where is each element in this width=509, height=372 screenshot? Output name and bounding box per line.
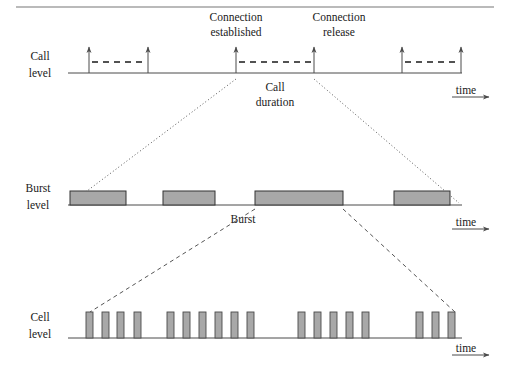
burst-rect	[163, 191, 215, 205]
cell-rect	[416, 312, 423, 338]
cell-rect	[298, 312, 305, 338]
connection-release-label-line2: release	[323, 26, 355, 38]
cell-rect	[183, 312, 190, 338]
burst-annotation-label: Burst	[231, 213, 257, 225]
connector-call-to-burst-right	[314, 79, 459, 203]
cell-level-time-label: time	[456, 342, 476, 354]
burst-level-group: time Burst level Burst	[26, 182, 489, 229]
cell-level-label-line1: Cell	[30, 311, 49, 323]
cell-rect	[134, 312, 141, 338]
cell-rect	[448, 312, 455, 338]
cell-rect	[231, 312, 238, 338]
cell-rect	[167, 312, 174, 338]
cell-level-group: time Cell level	[29, 311, 489, 355]
cell-rect	[247, 312, 254, 338]
cell-rect	[314, 312, 321, 338]
connection-established-label-line1: Connection	[209, 11, 262, 23]
cell-rect	[86, 312, 93, 338]
call-level-label-line2: level	[29, 67, 51, 79]
connection-established-label-line2: established	[210, 26, 261, 38]
connection-release-label-line1: Connection	[312, 11, 365, 23]
burst-level-label-line2: level	[27, 199, 49, 211]
burst-level-label-line1: Burst	[26, 182, 52, 194]
call-level-group: time Call level Connection established C…	[29, 11, 489, 108]
cell-rect	[199, 312, 206, 338]
cell-rect	[102, 312, 109, 338]
burst-level-time-label: time	[456, 216, 476, 228]
burst-rect	[70, 191, 126, 205]
cell-rect	[362, 312, 369, 338]
atm-traffic-levels-figure: time Call level Connection established C…	[0, 0, 509, 372]
call-duration-label-line1: Call	[265, 81, 284, 93]
cell-level-label-line2: level	[29, 328, 51, 340]
call-level-time-label: time	[456, 84, 476, 96]
figure-canvas: time Call level Connection established C…	[0, 0, 509, 372]
cell-rect	[432, 312, 439, 338]
burst-rect	[394, 191, 450, 205]
burst-rect	[255, 191, 343, 205]
call-duration-label-line2: duration	[256, 96, 295, 108]
call-level-label-line1: Call	[30, 50, 49, 62]
cell-rect	[330, 312, 337, 338]
cell-rect	[346, 312, 353, 338]
cell-rect	[117, 312, 124, 338]
connector-call-to-burst-left	[71, 79, 236, 203]
connector-burst-to-cell-right	[343, 209, 455, 312]
cell-rect	[215, 312, 222, 338]
